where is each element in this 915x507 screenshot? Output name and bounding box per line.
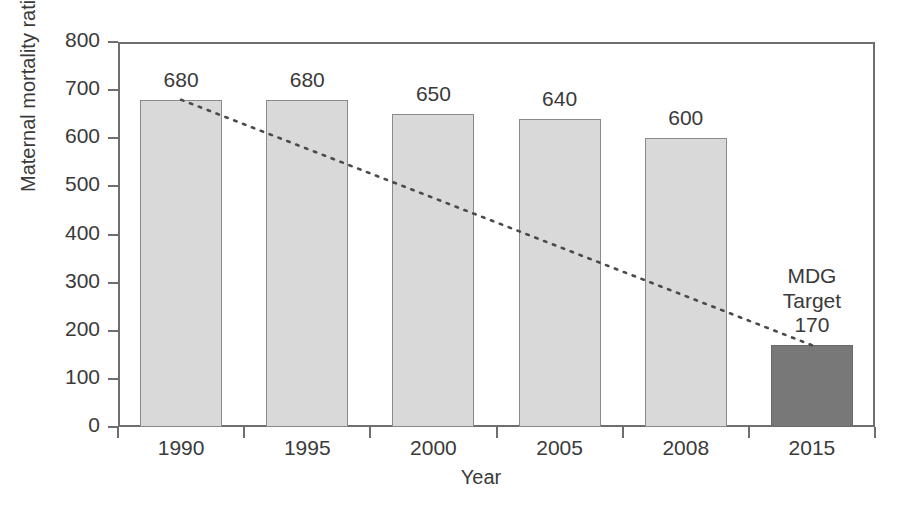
- y-tick-label: 600: [65, 124, 100, 148]
- maternal-mortality-bar-chart: Maternal mortality ratio (MMR) Year 0100…: [0, 0, 915, 507]
- bar-value-label: 600: [616, 106, 756, 130]
- bar-value-label: 170: [742, 313, 882, 337]
- bar-value-label: 650: [363, 82, 503, 106]
- x-category-label: 2008: [616, 436, 756, 460]
- bar-value-label: 680: [111, 68, 251, 92]
- y-tick-mark: [108, 378, 118, 380]
- x-category-label: 1990: [111, 436, 251, 460]
- bar-value-label: 640: [490, 87, 630, 111]
- bar[interactable]: [519, 119, 601, 427]
- x-category-label: 1995: [237, 436, 377, 460]
- x-category-label: 2005: [490, 436, 630, 460]
- bar[interactable]: [771, 345, 853, 427]
- x-category-label: 2000: [363, 436, 503, 460]
- annotation-line-2: Target: [732, 288, 892, 313]
- y-tick-mark: [108, 185, 118, 187]
- bar[interactable]: [392, 114, 474, 427]
- x-category-label: 2015: [742, 436, 882, 460]
- annotation-line-1: MDG: [732, 263, 892, 288]
- y-tick-mark: [108, 282, 118, 284]
- y-tick-label: 500: [65, 172, 100, 196]
- bar-value-label: 680: [237, 68, 377, 92]
- y-axis-title: Maternal mortality ratio (MMR): [8, 0, 48, 272]
- bar[interactable]: [645, 138, 727, 427]
- mdg-target-annotation: MDGTarget: [732, 263, 892, 313]
- y-tick-label: 0: [88, 413, 100, 437]
- bar[interactable]: [140, 100, 222, 427]
- y-tick-mark: [108, 234, 118, 236]
- y-tick-mark: [108, 330, 118, 332]
- y-tick-label: 200: [65, 317, 100, 341]
- y-tick-mark: [108, 137, 118, 139]
- y-tick-label: 100: [65, 365, 100, 389]
- y-tick-label: 300: [65, 269, 100, 293]
- y-tick-mark: [108, 41, 118, 43]
- x-axis-title: Year: [406, 466, 556, 489]
- y-tick-label: 800: [65, 28, 100, 52]
- bar[interactable]: [266, 100, 348, 427]
- y-tick-label: 700: [65, 76, 100, 100]
- y-tick-label: 400: [65, 221, 100, 245]
